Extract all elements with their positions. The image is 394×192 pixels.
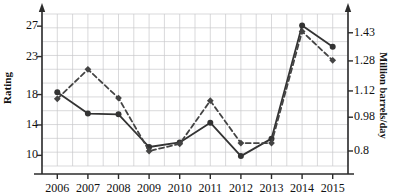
grid-lines: [42, 14, 348, 166]
data-point-marker: [54, 89, 60, 95]
data-point-marker: [238, 153, 244, 159]
data-point-marker: [85, 111, 91, 117]
data-point-marker: [116, 111, 122, 117]
plot-area: [0, 0, 394, 192]
data-point-marker: [115, 95, 122, 102]
axis-lines: [34, 3, 354, 179]
chart-container: Rating Million barrels/day 2723181410 1.…: [0, 0, 394, 192]
data-point-marker: [330, 44, 336, 50]
data-point-marker: [207, 120, 213, 126]
data-point-marker: [299, 22, 305, 28]
